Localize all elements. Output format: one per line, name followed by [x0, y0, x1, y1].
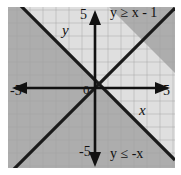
inequality-label-top: y ≥ x - 1	[110, 6, 157, 20]
origin-label: 0	[83, 83, 90, 96]
y-axis-name-label: y	[62, 23, 69, 38]
y-axis-tick-label-minus-5: -5	[79, 145, 91, 159]
x-axis-name-label: x	[139, 103, 146, 118]
y-axis-tick-label-5: 5	[80, 8, 87, 22]
x-axis-tick-label-minus-5: -5	[10, 84, 22, 98]
inequality-label-bottom: y ≤ -x	[110, 147, 143, 161]
x-axis-tick-label-5: 5	[163, 84, 170, 98]
inequality-graph-figure: 5 -5 5 -5 0 y x y ≥ x - 1 y ≤ -x	[0, 0, 181, 175]
